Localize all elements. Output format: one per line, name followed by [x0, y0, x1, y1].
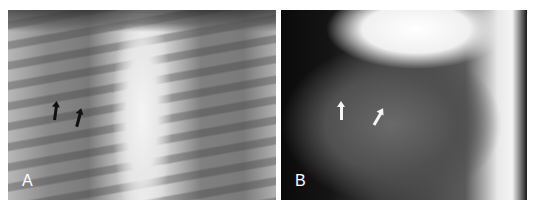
panel-label-b: B	[295, 172, 306, 190]
radiograph-panel-b: B	[281, 10, 527, 200]
panel-label-a: A	[22, 172, 33, 190]
arrow-icon	[53, 106, 58, 120]
arrow-icon	[340, 106, 343, 120]
radiograph-panel-a: A	[8, 10, 276, 200]
arrow-icon	[373, 112, 383, 126]
arrow-icon	[75, 113, 82, 127]
